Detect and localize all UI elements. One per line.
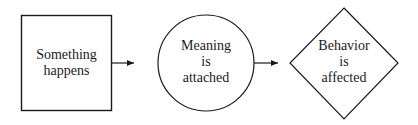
diamond-node-label: Behavior is affected	[296, 38, 392, 86]
square-node-label: Something happens	[21, 47, 112, 79]
diamond-node-line-1: Behavior	[296, 38, 392, 54]
diamond-node-line-2: is	[296, 54, 392, 70]
square-node-line-1: Something	[21, 47, 112, 63]
circle-node-line-3: attached	[158, 70, 254, 86]
square-node-line-2: happens	[21, 63, 112, 79]
circle-node-line-1: Meaning	[158, 38, 254, 54]
circle-node-label: Meaning is attached	[158, 38, 254, 86]
diamond-node-line-3: affected	[296, 70, 392, 86]
circle-node-line-2: is	[158, 54, 254, 70]
